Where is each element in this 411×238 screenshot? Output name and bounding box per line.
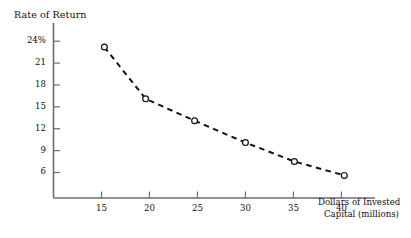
data-point-marker [101, 44, 107, 50]
x-tick-label: 35 [278, 203, 308, 213]
x-axis-title-line-1: Dollars of Invested [318, 197, 400, 207]
y-tick-label: 21 [12, 57, 46, 67]
y-tick-label: 18 [12, 79, 46, 89]
y-tick-label: 12 [12, 123, 46, 133]
x-tick-label: 20 [134, 203, 164, 213]
data-point-marker [341, 173, 347, 179]
x-tick-label: 15 [86, 203, 116, 213]
x-tick-label: 25 [182, 203, 212, 213]
data-point-marker [192, 118, 198, 124]
data-point-marker [143, 96, 149, 102]
x-tick-label: 30 [230, 203, 260, 213]
data-point-marker [291, 159, 297, 165]
x-axis-title: Dollars of Invested Capital (millions) [318, 197, 400, 220]
y-tick-label: 9 [12, 145, 46, 155]
chart-container: Rate of Return 24%2118151296 15202530354… [0, 0, 411, 238]
data-point-marker [243, 140, 249, 146]
y-tick-label: 6 [12, 166, 46, 176]
data-series-line [104, 47, 344, 175]
x-tick-marks [101, 192, 341, 199]
y-tick-label: 15 [12, 101, 46, 111]
x-axis-title-line-2: Capital (millions) [318, 209, 400, 221]
y-tick-marks [54, 41, 61, 172]
y-tick-label: 24% [12, 35, 46, 45]
data-point-markers [101, 44, 347, 178]
y-axis [54, 23, 61, 198]
